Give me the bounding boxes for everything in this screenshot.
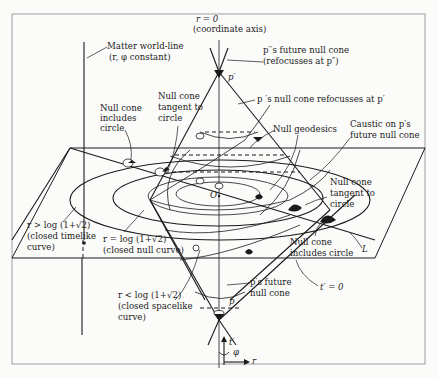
circle-mid bbox=[113, 170, 323, 226]
arrow-includes-circle-1 bbox=[125, 130, 131, 160]
label-null-curve-b: (closed null curve) bbox=[103, 245, 184, 256]
label-matter-worldline-note: (r, φ constant) bbox=[109, 52, 171, 63]
label-coordinate-axis: (coordinate axis) bbox=[193, 24, 266, 35]
pprime-future-left bbox=[210, 48, 219, 72]
label-p-cone-refocusses: p ′s null cone refocusses at p′ bbox=[257, 94, 385, 105]
pprime-cone-right bbox=[219, 72, 330, 210]
label-origin: O bbox=[210, 190, 217, 201]
circle-outer bbox=[70, 160, 370, 240]
label-includes-circle-1a: Null cone bbox=[100, 103, 142, 114]
label-p-future-a: p′s future bbox=[250, 277, 292, 288]
label-t-zero: t′ = 0 bbox=[320, 282, 344, 293]
label-axis-t: t′ bbox=[229, 337, 234, 348]
label-tangent-2a: Null cone bbox=[330, 177, 372, 188]
origin-point bbox=[218, 195, 220, 197]
label-r-zero: r = 0 bbox=[196, 14, 218, 25]
label-axis-phi: φ bbox=[233, 347, 239, 358]
label-includes-circle-2a: Null cone bbox=[290, 237, 332, 248]
label-null-curve-a: r = log (1+√2) bbox=[103, 234, 166, 245]
label-line-L: L bbox=[362, 244, 368, 255]
label-tangent-1a: Null cone bbox=[158, 91, 200, 102]
black-cone-low-right bbox=[245, 249, 253, 255]
worldline-intersection bbox=[82, 241, 86, 245]
p-cone-below-left bbox=[208, 320, 219, 345]
arrow-caustic bbox=[310, 138, 350, 180]
arrow-null-geodesics-1 bbox=[250, 130, 275, 148]
label-caustic-b: future null cone bbox=[350, 130, 420, 141]
arrow-tangent-2 bbox=[305, 197, 327, 205]
t-zero-plane bbox=[12, 148, 425, 258]
label-spacelike-c: curve) bbox=[118, 312, 146, 323]
label-spacelike-b: (closed spacelike bbox=[118, 301, 193, 312]
arrow-matter-worldline bbox=[87, 47, 107, 58]
label-includes-circle-1b: includes bbox=[100, 113, 136, 124]
label-caustic-a: Caustic on p′s bbox=[350, 119, 411, 130]
null-geodesic-4 bbox=[180, 225, 300, 260]
label-includes-circle-1c: circle bbox=[100, 123, 124, 134]
label-timelike-b: (closed timelike bbox=[27, 231, 96, 242]
label-timelike-a: r > log (1+√2) bbox=[27, 220, 90, 231]
black-cone-tangent-right bbox=[288, 204, 302, 211]
t-axis-arrowhead bbox=[221, 336, 227, 342]
small-cone-top bbox=[196, 133, 204, 139]
label-pprime: p′ bbox=[228, 72, 235, 83]
arrow-null-curve bbox=[124, 210, 144, 232]
small-cone-low-left bbox=[193, 245, 199, 251]
section-arc-2 bbox=[170, 156, 290, 167]
arrow-t-zero bbox=[296, 260, 318, 286]
pprime-future-right bbox=[219, 48, 228, 72]
arrow-pprime-future bbox=[227, 60, 263, 62]
null-geodesic-3 bbox=[165, 215, 290, 233]
small-cone-origin bbox=[215, 183, 223, 189]
label-axis-r: r bbox=[252, 356, 256, 367]
label-timelike-c: curve) bbox=[27, 242, 55, 253]
label-pprime-refocus: (refocusses at p″) bbox=[263, 56, 339, 67]
label-p-future-b: null cone bbox=[250, 288, 290, 299]
label-tangent-2c: circle bbox=[330, 199, 354, 210]
label-matter-worldline: Matter world-line bbox=[107, 41, 184, 52]
arrow-p-refocus bbox=[238, 100, 255, 104]
small-cone-near-origin bbox=[196, 178, 204, 184]
label-null-geodesics: Null geodesics bbox=[273, 124, 337, 135]
label-p: p bbox=[229, 296, 235, 307]
label-includes-circle-2b: includes circle bbox=[290, 248, 353, 259]
label-tangent-2b: tangent to bbox=[330, 188, 375, 199]
section-arc-1 bbox=[200, 132, 258, 139]
label-tangent-1b: tangent to bbox=[158, 102, 203, 113]
label-tangent-1c: circle bbox=[158, 113, 182, 124]
small-cone-includes-circle-left bbox=[123, 159, 136, 167]
label-pprime-future-cone: p′′s future null cone bbox=[263, 45, 349, 56]
label-spacelike-a: r < log (1+√2) bbox=[118, 290, 181, 301]
